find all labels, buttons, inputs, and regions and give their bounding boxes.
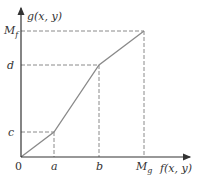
diagram: g(x, y) f(x, y) Mf d c 0 a b Mg [0, 0, 204, 185]
tick-label-mg: Mg [135, 160, 152, 175]
origin-label: 0 [15, 160, 22, 173]
tick-label-a: a [51, 160, 58, 173]
tick-label-b: b [96, 160, 103, 173]
x-axis-label: f(x, y) [159, 162, 192, 175]
tick-label-c: c [8, 126, 14, 139]
mapping-curve [21, 31, 144, 157]
guide-lines [21, 31, 144, 157]
piecewise-linear-graph: g(x, y) f(x, y) Mf d c 0 a b Mg [0, 0, 204, 185]
y-axis-label: g(x, y) [27, 10, 62, 23]
tick-label-mf: Mf [3, 24, 20, 39]
tick-label-d: d [7, 59, 14, 72]
